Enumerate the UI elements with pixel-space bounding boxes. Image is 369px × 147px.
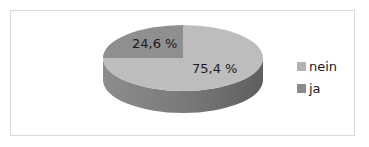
legend-label-nein: nein — [309, 59, 337, 74]
legend-swatch-ja — [297, 84, 306, 93]
data-label-ja: 24,6 % — [132, 36, 177, 51]
legend: nein ja — [297, 55, 337, 99]
legend-item-ja[interactable]: ja — [297, 77, 337, 99]
legend-swatch-nein — [297, 62, 306, 71]
legend-item-nein[interactable]: nein — [297, 55, 337, 77]
data-label-nein: 75,4 % — [192, 61, 237, 76]
legend-label-ja: ja — [309, 81, 321, 96]
